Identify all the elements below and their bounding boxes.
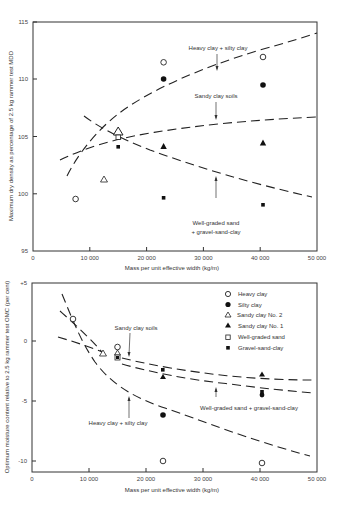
x-tick: 20 000 (137, 255, 156, 261)
y-axis-label: Maximum dry density as percentage of 2.5… (8, 50, 14, 221)
curve-heavy-silty-clay (62, 294, 310, 456)
x-tick: 30 000 (194, 476, 213, 482)
y-tick: 105 (18, 134, 29, 140)
y-tick: 110 (18, 76, 28, 82)
x-axis-label: Mass per unit effective width (kg/m) (125, 265, 219, 271)
bottom-data-points (70, 316, 265, 466)
legend-sandy-clay-1: Sandy clay No. 1 (238, 323, 284, 329)
curve-heavy-silty-clay (67, 33, 317, 176)
x-tick: 40 000 (251, 476, 270, 482)
legend-gravel-sand-clay: Gravel-sand-clay (238, 345, 283, 351)
bottom-y-axis: +5 0 -5 -10 Optimum moisture content rel… (4, 280, 36, 473)
annotation-well-graded-2: + gravel-sand-clay (191, 229, 240, 235)
y-tick: 95 (21, 248, 28, 254)
annotation-well-graded-gravel: Well-graded sand + gravel-sand-clay (200, 405, 298, 411)
y-tick: -10 (18, 458, 27, 464)
x-axis-label: Mass per unit effective width (kg/m) (125, 487, 219, 493)
x-tick: 20 000 (137, 476, 156, 482)
x-tick: 30 000 (194, 255, 213, 261)
annotation-heavy-silty-clay: Heavy clay + silty clay (89, 420, 148, 426)
legend-silty-clay: Silty clay (238, 302, 262, 308)
curve-well-graded-right (122, 364, 313, 393)
y-tick: +5 (20, 280, 28, 286)
figure: 115 110 105 100 95 Maximum dry density a… (0, 0, 338, 506)
y-tick: 0 (24, 338, 28, 344)
y-tick: -5 (22, 398, 28, 404)
curve-sandy-clay-right (122, 358, 313, 380)
annotation-sandy-clay: Sandy clay soils (194, 93, 237, 99)
x-tick: 0 (30, 476, 34, 482)
y-tick: 115 (18, 19, 28, 25)
bottom-chart: +5 0 -5 -10 Optimum moisture content rel… (4, 280, 327, 493)
x-tick: 50 000 (308, 476, 327, 482)
x-tick: 0 (31, 255, 35, 261)
x-tick: 50 000 (308, 255, 327, 261)
annotation-heavy-silty-clay: Heavy clay + silty clay (189, 45, 248, 51)
annotation-well-graded-1: Well-graded sand (193, 220, 240, 226)
y-tick: 100 (18, 191, 29, 197)
x-tick: 10 000 (81, 255, 100, 261)
x-tick: 10 000 (80, 476, 99, 482)
curve-sandy-clay (60, 117, 317, 160)
curve-sandy-clay-left (60, 311, 102, 352)
top-chart: 115 110 105 100 95 Maximum dry density a… (8, 19, 327, 271)
legend-well-graded-sand: Well-graded sand (238, 334, 285, 340)
x-tick: 40 000 (251, 255, 270, 261)
legend: Heavy clay Silty clay Sandy clay No. 2 S… (225, 291, 285, 351)
y-axis-label: Optimum moisture content relative to 2.5… (4, 281, 10, 474)
legend-heavy-clay: Heavy clay (238, 291, 267, 297)
legend-sandy-clay-2: Sandy clay No. 2 (237, 312, 283, 318)
top-plot-frame (33, 22, 317, 251)
annotation-sandy-clay: Sandy clay soils (114, 325, 157, 331)
